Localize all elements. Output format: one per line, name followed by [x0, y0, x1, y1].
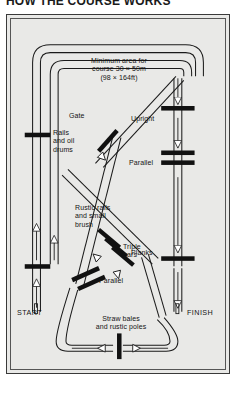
- obstacle-upright: [161, 106, 194, 111]
- obstacle-straw-bales-and-rustic-poles: [117, 333, 122, 359]
- start-label: START: [17, 309, 42, 317]
- course-diagram-frame: Minimum area for course 30 × 50m (98 × 1…: [10, 18, 226, 370]
- page-bottom-margin: [0, 378, 240, 396]
- label-parallel-right: Parallel: [129, 159, 153, 167]
- label-gate: Gate: [69, 112, 85, 120]
- obstacle-rustic-rails-and-small-brush: [25, 264, 51, 269]
- finish-label: FINISH: [187, 309, 213, 317]
- obstacle-gate: [97, 129, 119, 153]
- label-triple-bars: Triple bars: [123, 243, 141, 260]
- obstacle-rails-and-oil-drums: [25, 133, 51, 138]
- diagram-page: HOW THE COURSE WORKS: [0, 0, 240, 396]
- label-rails-and-oil-drums: Rails and oil drums: [53, 129, 93, 154]
- obstacle-parallel-right-a: [161, 150, 194, 155]
- label-parallel-lower: Parallel: [99, 277, 123, 285]
- label-upright: Upright: [131, 115, 154, 123]
- minimum-area-note: Minimum area for course 30 × 50m (98 × 1…: [63, 57, 175, 82]
- obstacle-parallel-right-b: [161, 160, 194, 165]
- page-title: HOW THE COURSE WORKS: [6, 0, 234, 8]
- label-straw-bales-and-rustic-poles: Straw bales and rustic poles: [69, 315, 173, 332]
- course-diagram-plate: Minimum area for course 30 × 50m (98 × 1…: [6, 14, 230, 374]
- label-rustic-rails-and-small-brush: Rustic rails and small brush: [75, 204, 129, 229]
- obstacle-planks: [161, 256, 194, 261]
